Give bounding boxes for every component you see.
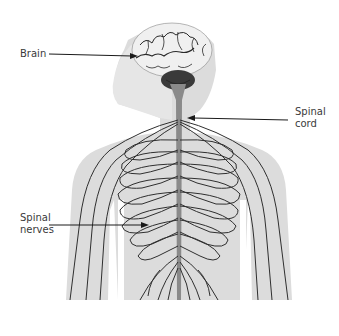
spinal-cord-label: Spinal cord (295, 106, 326, 130)
diagram-canvas (0, 0, 339, 336)
spinal-nerves-label-line1: Spinal (20, 212, 54, 224)
spinal-nerves-label: Spinal nerves (20, 212, 54, 236)
spinal-nerves-label-line2: nerves (20, 224, 54, 236)
spinal-cord-label-line1: Spinal (295, 106, 326, 118)
brain-label: Brain (20, 48, 46, 60)
spinal-cord-label-line2: cord (295, 118, 326, 130)
brain-label-text: Brain (20, 48, 46, 60)
nervous-system-diagram: Brain Spinal cord Spinal nerves (0, 0, 339, 336)
